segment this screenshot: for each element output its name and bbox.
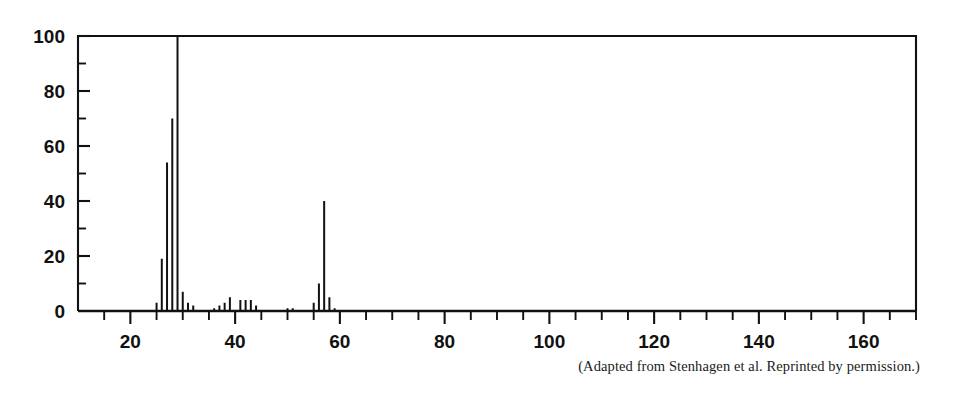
x-axis-ticks	[104, 311, 916, 324]
y-axis-tick-labels: 020406080100	[33, 26, 65, 322]
x-tick-label: 20	[120, 331, 141, 352]
x-tick-label: 140	[743, 331, 775, 352]
x-tick-label: 120	[638, 331, 670, 352]
plot-frame	[78, 36, 916, 311]
y-tick-label: 0	[54, 301, 65, 322]
x-tick-label: 100	[534, 331, 566, 352]
y-tick-label: 20	[44, 246, 65, 267]
y-axis-ticks	[78, 36, 90, 284]
x-tick-label: 160	[848, 331, 880, 352]
x-tick-label: 60	[329, 331, 350, 352]
spectrum-peaks	[157, 36, 335, 311]
mass-spectrum-figure: 020406080100 20406080100120140160 (Adapt…	[0, 0, 958, 397]
y-tick-label: 40	[44, 191, 65, 212]
x-tick-label: 80	[434, 331, 455, 352]
y-tick-label: 100	[33, 26, 65, 47]
plot-axes	[78, 36, 916, 311]
y-tick-label: 80	[44, 81, 65, 102]
x-axis-tick-labels: 20406080100120140160	[120, 331, 880, 352]
mass-spectrum-plot: 020406080100 20406080100120140160	[0, 0, 958, 397]
x-tick-label: 40	[225, 331, 246, 352]
y-tick-label: 60	[44, 136, 65, 157]
figure-caption: (Adapted from Stenhagen et al. Reprinted…	[0, 358, 920, 375]
